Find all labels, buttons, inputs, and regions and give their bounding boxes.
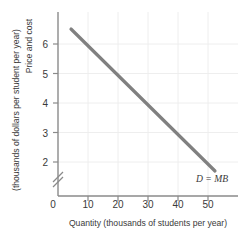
y-tick-label-3: 3 <box>42 128 48 139</box>
y-axis-title-line1: Price and cost <box>24 18 34 73</box>
y-axis-title-line2: (thousands of dollars per student per ye… <box>11 29 21 191</box>
x-tick-label-20: 20 <box>112 199 124 210</box>
x-tick-label-40: 40 <box>172 199 184 210</box>
y-tick-label-4: 4 <box>42 98 48 109</box>
y-tick-label-2: 2 <box>42 157 48 168</box>
x-tick-label-30: 30 <box>142 199 154 210</box>
demand-curve-label: D = MB <box>195 173 228 184</box>
y-tick-marks <box>53 44 58 162</box>
y-tick-label-6: 6 <box>42 39 48 50</box>
origin-label: 0 <box>50 199 56 210</box>
demand-curve-line <box>71 29 215 171</box>
x-axis-title: Quantity (thousands of students per year… <box>69 218 227 228</box>
y-tick-label-5: 5 <box>42 69 48 80</box>
x-tick-label-10: 10 <box>82 199 94 210</box>
chart-canvas: 6 5 4 3 2 0 10 20 30 40 50 D = MB Quanti… <box>0 0 252 236</box>
x-tick-label-50: 50 <box>202 199 214 210</box>
demand-curve-chart: 6 5 4 3 2 0 10 20 30 40 50 D = MB Quanti… <box>0 0 252 236</box>
